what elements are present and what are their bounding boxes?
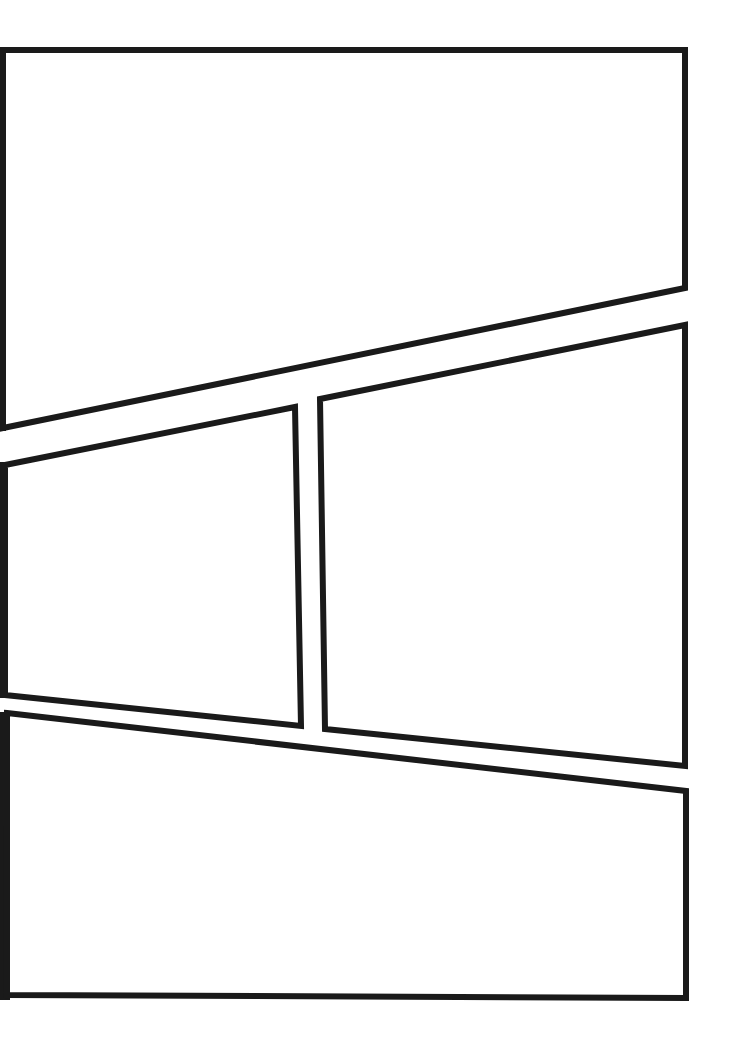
panel-2[interactable]	[5, 407, 301, 726]
panel-layout	[0, 0, 731, 1046]
panel-3[interactable]	[320, 325, 685, 766]
comic-page	[0, 0, 731, 1046]
